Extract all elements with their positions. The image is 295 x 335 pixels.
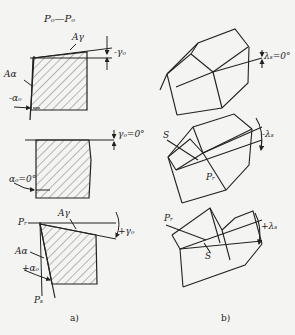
cutting-edge-label-middle: S xyxy=(163,131,169,140)
section-zero-rake xyxy=(14,130,114,198)
tool-angle-figure: Pₒ—Pₒ Aγ -γₒ Aα -αₒ γₒ=0° αₒ=0° Pᵣ Aγ +γ… xyxy=(0,0,295,335)
cutting-plane-label: Pₛ xyxy=(34,296,43,305)
clearance-angle-positive-label: +αₒ xyxy=(22,264,39,273)
panel-a-caption: a) xyxy=(70,313,79,323)
reference-plane-label-b-bottom: Pᵣ xyxy=(164,214,173,223)
tool-3d-positive-inclination xyxy=(166,208,262,287)
flank-face-label-bottom: Aα xyxy=(15,247,28,256)
reference-plane-label-a: Pᵣ xyxy=(18,218,27,227)
diagram-lines xyxy=(0,0,295,335)
tool-3d-negative-inclination xyxy=(167,114,262,203)
inclination-zero-label: λₛ=0° xyxy=(264,52,291,61)
reference-plane-label-b-middle: Pᵣ xyxy=(206,173,215,182)
rake-angle-zero-label: γₒ=0° xyxy=(118,130,145,139)
tool-3d-zero-inclination xyxy=(160,29,262,115)
clearance-angle-negative-label: -αₒ xyxy=(9,94,22,103)
rake-angle-negative-label: -γₒ xyxy=(114,48,126,57)
flank-face-label-top: Aα xyxy=(4,70,17,79)
section-plane-label: Pₒ—Pₒ xyxy=(44,14,75,24)
section-positive-rake xyxy=(24,212,119,298)
panel-b-caption: b) xyxy=(221,313,230,323)
cutting-edge-label-bottom: S xyxy=(205,252,211,261)
rake-angle-positive-label: +γₒ xyxy=(118,227,134,236)
section-negative-rake xyxy=(14,36,112,120)
inclination-negative-label: -λₛ xyxy=(262,130,274,139)
rake-face-label-top: Aγ xyxy=(72,33,84,42)
rake-face-label-bottom: Aγ xyxy=(58,209,70,218)
clearance-angle-zero-label: αₒ=0° xyxy=(9,175,36,184)
inclination-positive-label: +λₛ xyxy=(261,222,277,231)
